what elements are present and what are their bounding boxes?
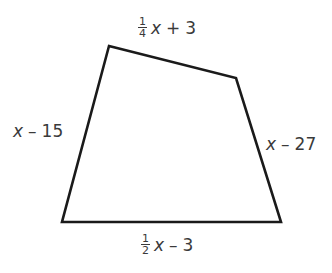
bottom-side-label: 1 2 x – 3 <box>141 233 193 256</box>
constant: 3 <box>183 235 194 255</box>
variable: x <box>266 134 276 154</box>
operator: – <box>28 121 37 141</box>
variable: x <box>13 121 23 141</box>
constant: 27 <box>295 134 317 154</box>
quadrilateral-outline <box>62 46 281 222</box>
operator: – <box>281 134 290 154</box>
denominator: 4 <box>138 28 147 39</box>
variable: x <box>154 235 164 255</box>
operator: – <box>169 235 178 255</box>
constant: 3 <box>185 18 196 38</box>
denominator: 2 <box>141 245 150 256</box>
operator: + <box>166 18 180 38</box>
fraction: 1 2 <box>141 233 150 256</box>
top-side-label: 1 4 x + 3 <box>138 16 196 39</box>
fraction: 1 4 <box>138 16 147 39</box>
right-side-label: x – 27 <box>266 134 316 154</box>
constant: 15 <box>42 121 64 141</box>
variable: x <box>151 18 161 38</box>
left-side-label: x – 15 <box>13 121 63 141</box>
